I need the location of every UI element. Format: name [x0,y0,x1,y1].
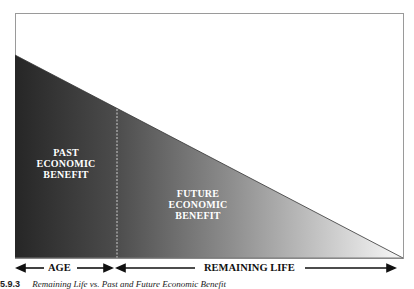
label-line: BENEFIT [28,169,104,180]
label-line: ECONOMIC [28,158,104,169]
figure-number: 5.9.3 [0,279,20,289]
label-line: PAST [28,147,104,158]
remaining-life-label: REMAINING LIFE [204,262,295,273]
figure-caption: 5.9.3 Remaining Life vs. Past and Future… [0,279,226,289]
future-economic-benefit-label: FUTURE ECONOMIC BENEFIT [160,188,236,221]
past-economic-benefit-label: PAST ECONOMIC BENEFIT [28,147,104,180]
figure-caption-text: Remaining Life vs. Past and Future Econo… [32,279,226,289]
label-line: ECONOMIC [160,199,236,210]
age-label: AGE [48,262,71,273]
label-line: BENEFIT [160,210,236,221]
label-line: FUTURE [160,188,236,199]
